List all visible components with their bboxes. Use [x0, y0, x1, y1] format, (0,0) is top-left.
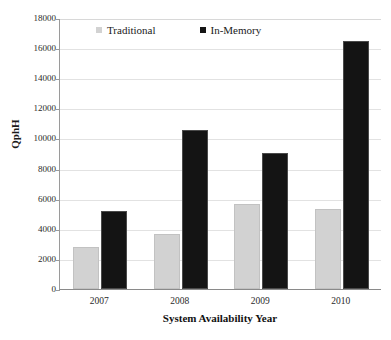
bar-traditional-2009: [234, 204, 260, 289]
bar-in-memory-2009: [262, 153, 288, 289]
chart-legend: TraditionalIn-Memory: [96, 24, 261, 36]
legend-swatch-traditional-icon: [96, 27, 102, 33]
bar-in-memory-2010: [343, 41, 369, 289]
legend-entry-traditional: Traditional: [96, 24, 156, 36]
x-axis-tick-label: 2009: [220, 296, 301, 306]
y-axis-tick-label: 10000: [16, 134, 56, 143]
y-axis-tick-label: 12000: [16, 104, 56, 113]
y-axis-tick-label: 6000: [16, 195, 56, 204]
y-axis-tick-label: 0: [16, 285, 56, 294]
x-axis-tick-label: 2008: [140, 296, 221, 306]
x-axis-tick-labels: 2007200820092010: [59, 296, 381, 310]
y-axis-tick-label: 18000: [16, 14, 56, 23]
y-axis-tick-label: 16000: [16, 44, 56, 53]
legend-entry-in-memory: In-Memory: [200, 24, 262, 36]
y-axis-tick-label: 2000: [16, 255, 56, 264]
legend-label: In-Memory: [211, 24, 262, 36]
y-axis-tick-label: 8000: [16, 165, 56, 174]
legend-label: Traditional: [107, 24, 156, 36]
bar-traditional-2007: [73, 247, 99, 289]
x-axis-title: System Availability Year: [59, 312, 381, 324]
bar-chart-figure: QphH 02000400060008000100001200014000160…: [0, 0, 391, 340]
x-axis-tick-label: 2007: [59, 296, 140, 306]
bar-traditional-2008: [154, 234, 180, 289]
bar-in-memory-2008: [182, 130, 208, 289]
bar-traditional-2010: [315, 209, 341, 289]
x-axis-tick-label: 2010: [301, 296, 382, 306]
bars-layer: [60, 19, 381, 289]
y-axis-tick-mark: [56, 290, 60, 291]
y-axis-tick-label: 4000: [16, 225, 56, 234]
plot-area: [59, 19, 381, 290]
bar-in-memory-2007: [101, 211, 127, 289]
legend-swatch-inmemory-icon: [200, 27, 206, 33]
y-axis-tick-labels: 0200040006000800010000120001400016000180…: [16, 0, 56, 340]
y-axis-tick-label: 14000: [16, 74, 56, 83]
